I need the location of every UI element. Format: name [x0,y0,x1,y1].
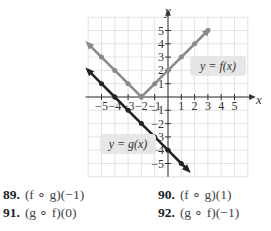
exercise-91: 91.(g ∘ f)(0) [3,204,77,221]
svg-text:−2: −2 [135,99,148,113]
svg-text:3: 3 [205,99,211,113]
svg-text:−5: −5 [151,157,164,171]
exercise-number: 90. [158,187,175,202]
svg-text:−2: −2 [151,117,164,131]
g-label: y = g(x) [108,137,148,151]
f-label-box: y = f(x) [190,56,246,76]
g-label-box: y = g(x) [100,134,156,154]
svg-text:4: 4 [158,37,164,51]
f-label: y = f(x) [199,59,236,73]
svg-text:2: 2 [192,99,198,113]
svg-text:−1: −1 [151,103,164,117]
svg-text:3: 3 [158,50,164,64]
y-axis-label: y [163,3,171,18]
svg-text:5: 5 [158,24,164,38]
exercise-number: 92. [158,205,175,220]
svg-text:1: 1 [178,99,184,113]
exercise-expression: (f ∘ g)(1) [180,187,232,202]
exercise-expression: (g ∘ f)(−1) [180,205,239,220]
exercise-92: 92.(g ∘ f)(−1) [158,204,239,221]
svg-text:5: 5 [232,99,238,113]
x-axis-label: x [255,92,262,107]
exercise-number: 89. [3,187,20,202]
exercise-number: 91. [3,205,20,220]
svg-text:−5: −5 [95,99,108,113]
exercise-90: 90.(f ∘ g)(1) [158,186,232,203]
exercise-expression: (f ∘ g)(−1) [25,187,84,202]
exercise-89: 89.(f ∘ g)(−1) [3,186,84,203]
exercise-expression: (g ∘ f)(0) [25,205,77,220]
coordinate-graph: −5−4−3−2−11234554321−1−2−3−4−5 y = f(x) … [0,0,271,180]
svg-text:4: 4 [218,99,224,113]
